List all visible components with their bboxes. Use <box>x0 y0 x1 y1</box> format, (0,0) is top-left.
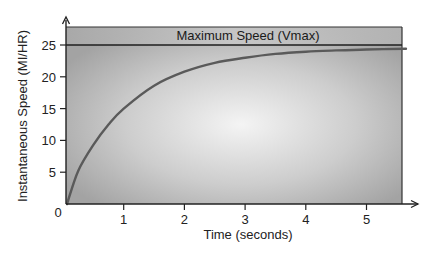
x-ticks: 12345 <box>120 204 370 227</box>
x-tick-label: 3 <box>241 212 248 227</box>
x-tick-label: 4 <box>302 212 309 227</box>
y-axis-title: Instantaneous Speed (MI/HR) <box>15 30 30 202</box>
y-tick-label: 10 <box>42 133 56 148</box>
speed-time-chart: Maximum Speed (Vmax) 510152025 12345 0 T… <box>0 0 438 256</box>
y-tick-label: 15 <box>42 102 56 117</box>
y-tick-label: 5 <box>49 165 56 180</box>
x-axis-title: Time (seconds) <box>203 227 292 242</box>
y-tick-label: 25 <box>42 38 56 53</box>
x-tick-label: 1 <box>120 212 127 227</box>
y-ticks: 510152025 <box>42 38 66 180</box>
y-tick-label: 20 <box>42 70 56 85</box>
origin-label: 0 <box>54 205 61 220</box>
vmax-label: Maximum Speed (Vmax) <box>176 28 319 43</box>
x-tick-label: 2 <box>181 212 188 227</box>
x-tick-label: 5 <box>363 212 370 227</box>
